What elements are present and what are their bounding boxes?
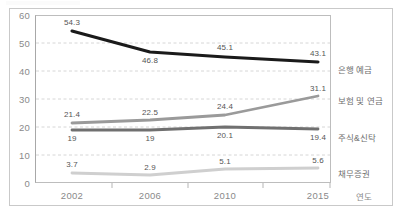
series-label-insurance-pension: 보험 및 연금 [338, 94, 383, 106]
line-chart: 60 50 40 30 20 10 0 2002 2006 2010 2015 … [0, 0, 403, 216]
y-tick-60: 60 [4, 10, 30, 21]
y-tick-0: 0 [4, 178, 30, 189]
y-tick-10: 10 [4, 150, 30, 161]
x-tick-2006: 2006 [122, 190, 178, 201]
x-axis-ticks [112, 183, 330, 188]
data-label-debt-2010: 5.1 [208, 157, 242, 166]
data-label-insurance-2015: 31.1 [301, 84, 335, 93]
series-line-insurance-pension [72, 96, 318, 123]
data-label-insurance-2002: 21.4 [55, 110, 89, 119]
series-line-bank-deposits [72, 31, 318, 62]
chart-canvas [0, 0, 403, 216]
data-label-stocks-2006: 19 [133, 134, 167, 143]
data-label-bank-2002: 54.3 [55, 18, 89, 27]
data-label-insurance-2006: 22.5 [133, 108, 167, 117]
data-label-bank-2010: 45.1 [208, 43, 242, 52]
data-label-stocks-2002: 19 [55, 134, 89, 143]
y-tick-50: 50 [4, 38, 30, 49]
y-tick-30: 30 [4, 94, 30, 105]
series-label-debt-securities: 채무증권 [338, 167, 370, 179]
y-tick-20: 20 [4, 122, 30, 133]
data-label-debt-2015: 5.6 [301, 156, 335, 165]
data-label-stocks-2010: 20.1 [208, 131, 242, 140]
data-label-debt-2002: 3.7 [55, 160, 89, 169]
x-tick-2010: 2010 [197, 190, 253, 201]
data-label-bank-2015: 43.1 [301, 49, 335, 58]
x-tick-2002: 2002 [44, 190, 100, 201]
series-label-stocks-trusts: 주식&신탁 [338, 131, 376, 143]
data-label-insurance-2010: 24.4 [208, 102, 242, 111]
series-line-debt-securities [72, 168, 318, 175]
x-tick-2015: 2015 [290, 190, 346, 201]
data-label-stocks-2015: 19.4 [301, 133, 335, 142]
data-label-bank-2006: 46.8 [133, 56, 167, 65]
x-axis-title: 연도 [356, 190, 372, 202]
data-label-debt-2006: 2.9 [133, 163, 167, 172]
series-label-bank-deposits: 은행 예금 [338, 63, 372, 75]
y-tick-40: 40 [4, 66, 30, 77]
